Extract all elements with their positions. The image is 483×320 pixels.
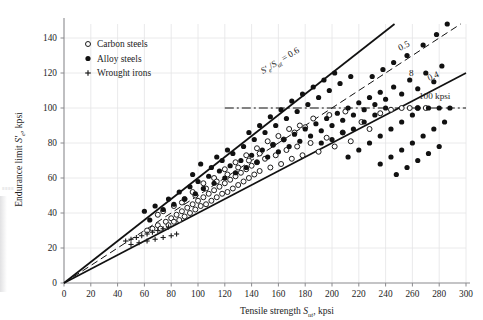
data-point bbox=[329, 137, 334, 142]
data-point bbox=[308, 133, 313, 138]
data-point bbox=[211, 181, 216, 186]
data-point bbox=[439, 63, 444, 68]
x-tick-label: 280 bbox=[432, 289, 446, 299]
data-point bbox=[254, 160, 259, 165]
data-point bbox=[383, 97, 388, 102]
data-point bbox=[228, 177, 233, 182]
data-point bbox=[177, 218, 182, 223]
data-point bbox=[399, 147, 404, 152]
data-point bbox=[421, 133, 426, 138]
data-point bbox=[367, 95, 372, 100]
data-point bbox=[134, 235, 139, 240]
data-point bbox=[279, 162, 284, 167]
data-point bbox=[410, 140, 415, 145]
data-point bbox=[196, 198, 201, 203]
data-point bbox=[399, 119, 404, 124]
data-point bbox=[185, 205, 190, 210]
data-point bbox=[319, 128, 324, 133]
data-point bbox=[351, 126, 356, 131]
data-point bbox=[161, 235, 166, 240]
data-point bbox=[383, 105, 388, 110]
data-point bbox=[276, 149, 281, 154]
data-point bbox=[289, 156, 294, 161]
data-point bbox=[204, 202, 209, 207]
filled-circle-icon bbox=[85, 56, 90, 61]
data-point bbox=[244, 153, 249, 158]
annotation-ratio-0-4: 0.4 bbox=[426, 69, 441, 83]
plot-svg: 0204060801001201401601802002202402602803… bbox=[0, 0, 483, 320]
data-point bbox=[348, 74, 353, 79]
x-tick-label: 60 bbox=[140, 289, 150, 299]
data-point bbox=[303, 126, 308, 131]
data-point bbox=[174, 231, 179, 236]
data-point bbox=[372, 102, 377, 107]
data-point bbox=[171, 202, 176, 207]
x-tick-label: 140 bbox=[245, 289, 259, 299]
data-point bbox=[316, 95, 321, 100]
data-point bbox=[153, 203, 158, 208]
legend-item-alloy-steels: Alloy steels bbox=[85, 54, 141, 64]
data-point bbox=[313, 121, 318, 126]
data-point bbox=[260, 147, 265, 152]
data-point bbox=[257, 123, 262, 128]
data-point bbox=[209, 165, 214, 170]
data-point bbox=[198, 204, 203, 209]
data-point bbox=[362, 119, 367, 124]
y-tick-label: 60 bbox=[48, 173, 58, 183]
data-point bbox=[447, 105, 452, 110]
data-point bbox=[217, 168, 222, 173]
data-point bbox=[265, 154, 270, 159]
data-point bbox=[169, 233, 174, 238]
annotation-figure-number: 8 bbox=[409, 68, 414, 78]
data-point bbox=[292, 132, 297, 137]
data-point bbox=[214, 195, 219, 200]
data-point bbox=[327, 88, 332, 93]
svg-text:0.4: 0.4 bbox=[426, 69, 441, 83]
data-point bbox=[238, 170, 243, 175]
data-point bbox=[246, 130, 251, 135]
data-point bbox=[345, 105, 350, 110]
data-point bbox=[273, 123, 278, 128]
data-point bbox=[445, 21, 450, 26]
x-tick-label: 100 bbox=[191, 289, 205, 299]
data-point bbox=[415, 158, 420, 163]
y-tick-label: 40 bbox=[48, 208, 58, 218]
x-tick-label: 240 bbox=[379, 289, 393, 299]
data-point bbox=[362, 107, 367, 112]
data-point bbox=[222, 175, 227, 180]
data-point bbox=[308, 141, 313, 146]
x-tick-label: 260 bbox=[405, 289, 419, 299]
data-point bbox=[410, 112, 415, 117]
data-point bbox=[222, 181, 227, 186]
data-point bbox=[153, 237, 158, 242]
data-point bbox=[252, 137, 257, 142]
data-point bbox=[201, 186, 206, 191]
y-tick-label: 100 bbox=[43, 103, 57, 113]
data-point bbox=[378, 111, 383, 116]
data-point bbox=[182, 214, 187, 219]
data-point bbox=[378, 133, 383, 138]
data-point bbox=[262, 130, 267, 135]
x-tick-label: 160 bbox=[271, 289, 285, 299]
data-point bbox=[268, 165, 273, 170]
data-point bbox=[289, 98, 294, 103]
x-tick-label: 200 bbox=[325, 289, 339, 299]
data-point bbox=[212, 188, 217, 193]
data-point bbox=[198, 161, 203, 166]
data-point bbox=[193, 191, 198, 196]
data-point bbox=[372, 112, 377, 117]
data-point bbox=[300, 91, 305, 96]
y-tick-label: 20 bbox=[48, 243, 58, 253]
data-point bbox=[268, 114, 273, 119]
data-point bbox=[284, 116, 289, 121]
data-point bbox=[367, 127, 372, 132]
open-circle-icon bbox=[86, 42, 91, 47]
data-point bbox=[257, 169, 262, 174]
data-point bbox=[209, 198, 214, 203]
data-point bbox=[187, 211, 192, 216]
data-point bbox=[340, 130, 345, 135]
legend-label: Alloy steels bbox=[97, 54, 142, 64]
data-point bbox=[437, 105, 442, 110]
data-point bbox=[340, 118, 345, 123]
data-point bbox=[270, 142, 275, 147]
